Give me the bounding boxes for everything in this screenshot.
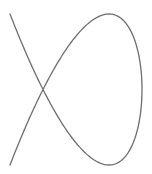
lissajous-figure	[0, 0, 152, 174]
lissajous-curve-path	[10, 14, 142, 165]
